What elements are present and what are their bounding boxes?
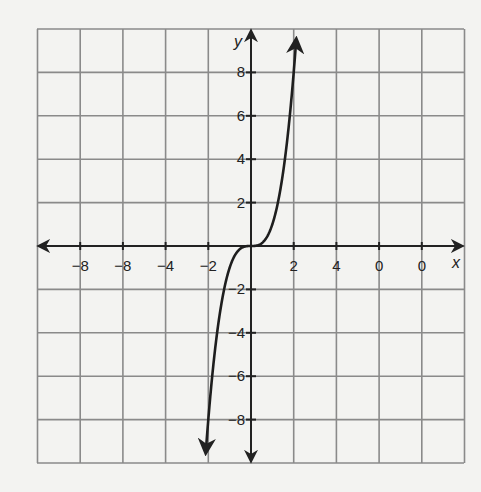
y-tick-label: 2 [237,194,245,211]
x-tick-label: 0 [418,257,426,274]
y-tick-label: 8 [237,63,245,80]
y-tick-label: −2 [228,280,245,297]
y-axis-label: y [233,33,243,50]
x-tick-label: −8 [72,257,89,274]
cubic-function-graph: −8−8−4−224008642−2−4−6−8xy [0,0,481,492]
x-tick-label: 4 [332,257,340,274]
y-tick-label: −6 [228,367,245,384]
y-tick-label: −8 [228,411,245,428]
x-tick-label: 0 [375,257,383,274]
y-tick-label: 6 [237,107,245,124]
x-tick-label: −2 [200,257,217,274]
y-tick-label: −4 [228,324,245,341]
tick-labels: −8−8−4−224008642−2−4−6−8xy [72,33,461,428]
x-tick-label: −8 [114,257,131,274]
x-tick-label: −4 [157,257,174,274]
y-tick-label: 4 [237,150,245,167]
x-axis-label: x [451,254,461,271]
x-tick-label: 2 [290,257,298,274]
